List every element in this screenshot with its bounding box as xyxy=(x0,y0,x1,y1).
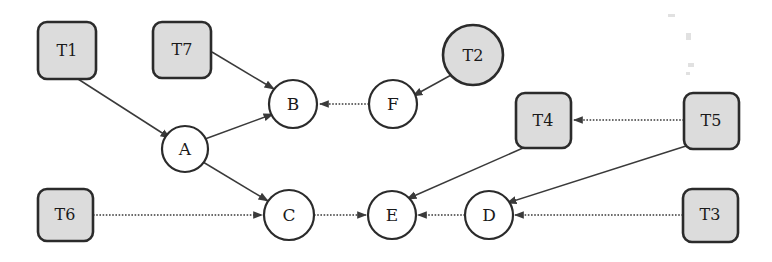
node-layer: T1 T7 T2 T4 T5 T6 xyxy=(38,22,739,242)
node-b-shape[interactable] xyxy=(269,80,317,128)
edge-t5-to-d xyxy=(507,146,686,203)
node-t6-shape[interactable] xyxy=(38,189,93,241)
node-t5[interactable]: T5 xyxy=(684,93,739,149)
node-t7[interactable]: T7 xyxy=(153,22,211,78)
node-f[interactable]: F xyxy=(369,80,417,128)
edge-t4-to-e xyxy=(407,148,523,199)
node-t6[interactable]: T6 xyxy=(38,189,93,241)
scan-artifact xyxy=(686,72,690,75)
node-a[interactable]: A xyxy=(162,126,208,172)
edge-t1-to-a xyxy=(78,79,170,138)
node-b[interactable]: B xyxy=(269,80,317,128)
node-d[interactable]: D xyxy=(465,191,513,239)
node-f-shape[interactable] xyxy=(369,80,417,128)
edge-t2-to-f xyxy=(413,74,453,96)
scan-artifact xyxy=(688,63,694,67)
node-e-shape[interactable] xyxy=(368,191,416,239)
diagram-canvas: T1 T7 T2 T4 T5 T6 xyxy=(0,0,772,262)
edge-t7-to-b xyxy=(212,52,274,89)
node-e[interactable]: E xyxy=(368,191,416,239)
node-c-shape[interactable] xyxy=(264,190,314,240)
node-t2-shape[interactable] xyxy=(443,25,503,85)
graph-svg: T1 T7 T2 T4 T5 T6 xyxy=(0,0,772,262)
node-d-shape[interactable] xyxy=(465,191,513,239)
node-t5-shape[interactable] xyxy=(684,93,739,149)
node-t4-shape[interactable] xyxy=(516,93,571,148)
edge-a-to-b xyxy=(205,114,273,139)
node-a-shape[interactable] xyxy=(162,126,208,172)
node-t3-shape[interactable] xyxy=(683,189,738,242)
edge-a-to-c xyxy=(203,162,268,201)
scan-artifact xyxy=(668,14,675,17)
node-t3[interactable]: T3 xyxy=(683,189,738,242)
scan-artifact xyxy=(686,33,691,40)
node-c[interactable]: C xyxy=(264,190,314,240)
node-t1-shape[interactable] xyxy=(38,22,96,79)
node-t2[interactable]: T2 xyxy=(443,25,503,85)
node-t4[interactable]: T4 xyxy=(516,93,571,148)
node-t7-shape[interactable] xyxy=(153,22,211,78)
node-t1[interactable]: T1 xyxy=(38,22,96,79)
